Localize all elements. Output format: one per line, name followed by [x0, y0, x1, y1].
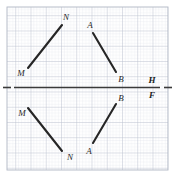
axis-label-f: F: [149, 91, 155, 100]
label-A-below: A: [86, 147, 92, 156]
label-M-below: M: [18, 109, 26, 118]
reflection-figure: N A M B M B N A H F: [0, 0, 175, 176]
label-A-above: A: [87, 21, 93, 30]
axis-label-h: H: [148, 76, 155, 85]
label-B-below: B: [118, 94, 124, 103]
label-B-above: B: [118, 75, 124, 84]
label-N-below: N: [67, 153, 73, 162]
label-M-above: M: [17, 69, 25, 78]
label-N-above: N: [63, 13, 69, 22]
